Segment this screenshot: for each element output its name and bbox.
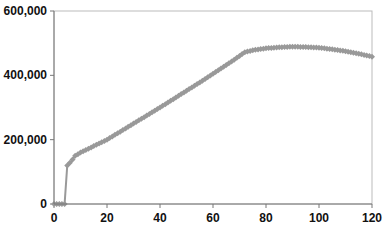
y-axis: 0200,000400,000600,000	[4, 4, 54, 211]
y-tick-label: 0	[40, 197, 47, 211]
x-tick-label: 100	[309, 211, 329, 225]
x-tick-label: 20	[100, 211, 114, 225]
x-tick-label: 120	[362, 211, 382, 225]
x-axis: 020406080100120	[51, 204, 383, 225]
y-tick-label: 600,000	[4, 4, 48, 18]
x-tick-label: 80	[259, 211, 273, 225]
x-tick-label: 60	[206, 211, 220, 225]
x-tick-label: 0	[51, 211, 58, 225]
x-tick-label: 40	[153, 211, 167, 225]
y-tick-label: 400,000	[4, 68, 48, 82]
line-chart: 0200,000400,000600,000 020406080100120	[0, 0, 386, 233]
plot-area	[54, 11, 372, 204]
y-tick-label: 200,000	[4, 133, 48, 147]
